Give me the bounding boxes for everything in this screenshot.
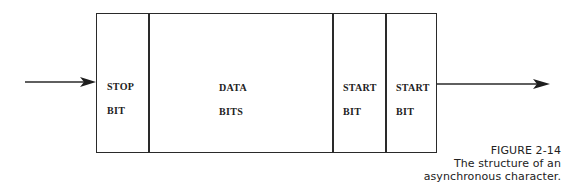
data-bits-line2: BITS	[219, 106, 247, 118]
start-bit-1-line1: START	[343, 82, 377, 94]
caption-line-2: asynchronous character.	[424, 170, 561, 183]
output-arrow-icon	[437, 79, 550, 89]
start-bit-2-line2: BIT	[396, 106, 430, 118]
caption-line-1: The structure of an	[424, 157, 561, 170]
input-arrow-icon	[25, 77, 96, 87]
start-bit-2-line1: START	[396, 82, 430, 94]
figure-caption: FIGURE 2-14 The structure of an asynchro…	[424, 144, 561, 183]
divider-stop-data	[148, 13, 150, 153]
data-bits-label: DATA BITS	[219, 70, 247, 130]
divider-data-start	[332, 13, 334, 153]
start-bit-2-label: START BIT	[396, 70, 430, 130]
start-bit-1-label: START BIT	[343, 70, 377, 130]
figure-number: FIGURE 2-14	[424, 144, 561, 157]
stop-bit-line1: STOP	[107, 81, 134, 93]
start-bit-1-line2: BIT	[343, 106, 377, 118]
data-bits-line1: DATA	[219, 82, 247, 94]
async-character-diagram: STOP BIT DATA BITS START BIT START BIT F…	[0, 0, 575, 191]
stop-bit-label: STOP BIT	[107, 69, 134, 129]
divider-start-start	[385, 13, 387, 153]
stop-bit-line2: BIT	[107, 105, 134, 117]
